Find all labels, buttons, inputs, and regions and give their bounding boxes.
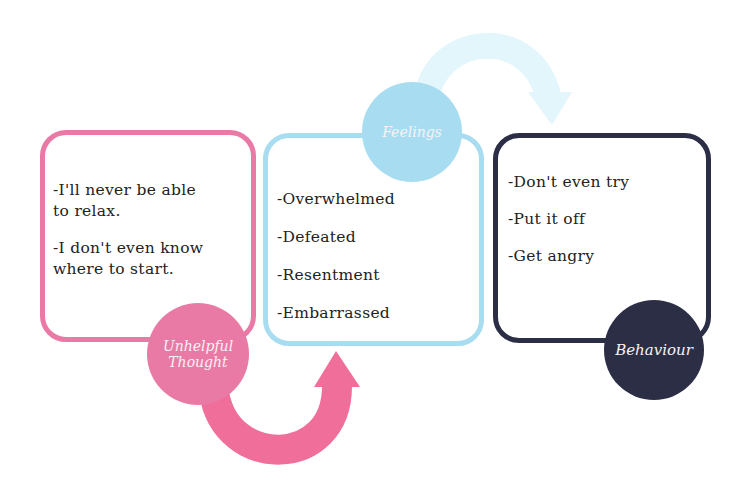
behaviour-label: Behaviour (615, 342, 693, 358)
unhelpful-thought-badge: Unhelpful Thought (147, 303, 249, 405)
thought-to-feelings-arrow (0, 0, 746, 487)
feelings-label: Feelings (382, 124, 442, 140)
thought-label-line1: Unhelpful (163, 338, 233, 354)
thought-label-line2: Thought (163, 354, 233, 370)
feelings-badge: Feelings (362, 82, 462, 182)
behaviour-badge: Behaviour (604, 300, 704, 400)
